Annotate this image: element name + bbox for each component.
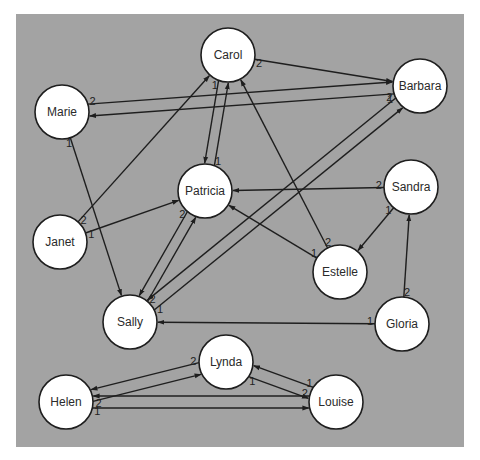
edge-rank-label: 2	[302, 387, 308, 399]
node-label: Lynda	[210, 355, 243, 369]
edge-rank-label: 1	[212, 79, 218, 91]
node-label: Gloria	[386, 317, 418, 331]
edge-rank-label: 1	[94, 405, 100, 417]
edge-rank-label: 2	[376, 179, 382, 191]
edge-rank-label: 1	[387, 93, 393, 105]
node-marie: Marie	[35, 85, 89, 139]
edge-rank-label: 1	[367, 315, 373, 327]
node-label: Marie	[47, 105, 77, 119]
edge-rank-label: 2	[90, 95, 96, 107]
node-label: Janet	[45, 235, 75, 249]
edge-rank-label: 2	[190, 355, 196, 367]
node-carol: Carol	[201, 28, 255, 82]
node-label: Sally	[117, 315, 143, 329]
edge-rank-label: 2	[256, 57, 262, 69]
edge-rank-label: 1	[157, 303, 163, 315]
node-patricia: Patricia	[178, 164, 232, 218]
edge-rank-label: 1	[88, 228, 94, 240]
node-estelle: Estelle	[313, 245, 367, 299]
node-label: Helen	[50, 395, 81, 409]
node-sandra: Sandra	[384, 160, 438, 214]
node-louise: Louise	[309, 375, 363, 429]
node-sally: Sally	[103, 295, 157, 349]
node-label: Patricia	[185, 184, 225, 198]
node-gloria: Gloria	[375, 297, 429, 351]
edge-rank-label: 1	[249, 375, 255, 387]
node-barbara: Barbara	[393, 59, 447, 113]
diagram-canvas: 222121112121221112221121 CarolBarbaraMar…	[0, 0, 480, 460]
node-label: Sandra	[392, 180, 431, 194]
edge-rank-label: 1	[215, 155, 221, 167]
node-janet: Janet	[33, 215, 87, 269]
node-label: Estelle	[322, 265, 358, 279]
node-label: Barbara	[399, 79, 442, 93]
node-label: Carol	[214, 48, 243, 62]
edge-rank-label: 1	[311, 247, 317, 259]
node-lynda: Lynda	[199, 335, 253, 389]
edge-rank-label: 2	[179, 208, 185, 220]
node-label: Louise	[318, 395, 354, 409]
node-helen: Helen	[39, 375, 93, 429]
sociogram-diagram: 222121112121221112221121 CarolBarbaraMar…	[0, 0, 480, 460]
